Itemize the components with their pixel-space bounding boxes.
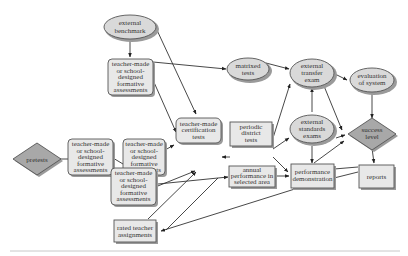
svg-text:level: level (365, 133, 379, 141)
edge-performance-to-rated (161, 188, 298, 231)
node-pretests: pretests (13, 143, 63, 177)
svg-text:benchmark: benchmark (114, 27, 146, 35)
edge-rated-to-annual (166, 178, 218, 230)
node-external-standards-exams: external standards exams (290, 115, 337, 146)
node-external-benchmark: external benchmark (104, 15, 159, 42)
svg-text:tests: tests (242, 69, 255, 77)
edge-formative-top-to-certification (153, 80, 176, 132)
edge-performance-to-reports-b (334, 172, 358, 178)
node-formative-assessments-top: teacher-made or school- designed formati… (108, 59, 155, 97)
node-rated-teacher-assignments: rated teacher assignments (114, 220, 158, 244)
node-certification-tests: teacher-made certification tests (176, 118, 223, 145)
edge-standards-to-success (336, 135, 345, 138)
svg-text:assignments: assignments (118, 231, 152, 239)
node-evaluation-of-system: evaluation of system (350, 68, 397, 95)
svg-text:assessments: assessments (117, 195, 151, 203)
node-formative-assessments-bottom: teacher-made or school- designed formati… (111, 168, 158, 207)
node-success-level: success level (348, 118, 398, 152)
svg-text:pretests: pretests (26, 156, 48, 164)
svg-text:assessments: assessments (74, 166, 108, 174)
svg-text:exams: exams (303, 132, 321, 140)
assessment-flow-diagram: external benchmark teacher-made or schoo… (0, 0, 408, 256)
node-reports: reports (359, 165, 396, 190)
svg-text:reports: reports (367, 173, 387, 181)
node-performance-demonstration: performance demonstration (291, 164, 336, 190)
svg-text:assessments: assessments (114, 86, 148, 94)
svg-text:exam: exam (304, 76, 320, 84)
edge-periodic-to-standards (273, 138, 289, 149)
node-matrixed-tests: matrixed tests (227, 58, 272, 83)
node-formative-assessments-left: teacher-made or school- designed formati… (68, 139, 115, 177)
edge-performance-to-reports-a (334, 167, 358, 169)
svg-text:tests: tests (192, 133, 205, 141)
svg-text:external: external (119, 19, 142, 27)
edge-formative-top-to-matrixed (153, 62, 226, 69)
svg-text:selected area: selected area (234, 178, 271, 186)
svg-text:demonstration: demonstration (292, 175, 333, 183)
svg-text:tests: tests (245, 136, 258, 144)
edge-periodic-to-transfer (273, 84, 290, 138)
node-annual-performance: annual performance in selected area (229, 166, 277, 189)
node-external-transfer-exam: external transfer exam (290, 59, 337, 90)
svg-text:of system: of system (358, 79, 386, 87)
node-periodic-district-tests: periodic district tests (230, 122, 274, 148)
